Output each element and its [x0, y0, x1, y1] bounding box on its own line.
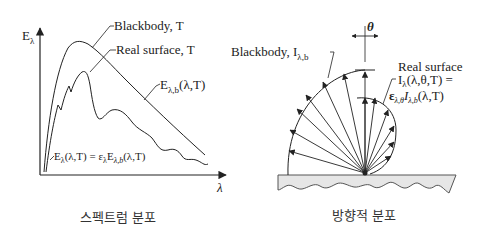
directional-caption: 방향적 분포 — [332, 208, 396, 223]
real-surface-leader — [90, 50, 116, 72]
theta-label: θ — [367, 19, 374, 34]
y-axis-label: Eλ — [22, 28, 35, 46]
real-surface-label: Real surface, T — [116, 42, 195, 57]
real-surface-rays — [365, 98, 394, 173]
x-axis-label: λ — [216, 180, 223, 195]
surface — [278, 175, 456, 193]
blackbody-function-leader — [144, 84, 160, 100]
spectral-caption: 스펙트럼 분포 — [80, 210, 156, 225]
blackbody-leader — [92, 26, 114, 48]
diagram-canvas: Eλ λ Blackbody, T Real surface, T Eλ,b(λ… — [0, 0, 491, 238]
blackbody-label: Blackbody, T — [114, 18, 184, 33]
blackbody-function-label: Eλ,b(λ,T) — [160, 77, 205, 95]
emission-point — [363, 171, 368, 176]
directional-blackbody-label: Blackbody, Iλ,b — [231, 44, 309, 62]
directional-distribution-diagram: θ Blackbody, Iλ,b Real surface Iλ(λ,θ,T)… — [231, 19, 463, 223]
real-surface-equation: Eλ(λ,T) = ελEλ,b(λ,T) — [54, 150, 146, 165]
directional-real-equation-line1: Iλ(λ,θ,T) = — [398, 72, 453, 89]
directional-blackbody-leader — [328, 52, 334, 78]
directional-real-equation-line2: ελ,θIλ,b(λ,T) — [389, 88, 444, 105]
blackbody-rays — [289, 72, 365, 173]
spectral-distribution-chart: Eλ λ Blackbody, T Real surface, T Eλ,b(λ… — [22, 18, 226, 225]
